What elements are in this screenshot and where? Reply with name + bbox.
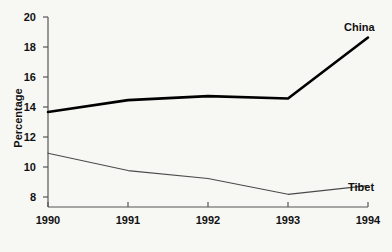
series-label-tibet: Tibet [348, 182, 374, 193]
series-label-china: China [344, 22, 375, 33]
x-tick-label-1990: 1990 [25, 215, 71, 226]
x-tick-label-1992: 1992 [185, 215, 231, 226]
y-tick-label-18: 18 [12, 42, 36, 53]
y-axis-ticks [43, 17, 48, 197]
line-chart: Percentage 20 18 16 14 12 10 8 1990 1991… [0, 0, 392, 252]
series-line-china [48, 38, 368, 112]
y-tick-label-12: 12 [12, 132, 36, 143]
series-line-tibet [48, 153, 368, 194]
x-tick-label-1994: 1994 [345, 215, 391, 226]
y-axis-title: Percentage [12, 78, 24, 158]
y-tick-label-16: 16 [12, 72, 36, 83]
y-tick-label-20: 20 [12, 12, 36, 23]
y-tick-label-14: 14 [12, 102, 36, 113]
y-tick-label-10: 10 [12, 162, 36, 173]
x-tick-label-1993: 1993 [265, 215, 311, 226]
x-axis-ticks [48, 202, 368, 207]
x-tick-label-1991: 1991 [105, 215, 151, 226]
y-tick-label-8: 8 [12, 192, 36, 203]
